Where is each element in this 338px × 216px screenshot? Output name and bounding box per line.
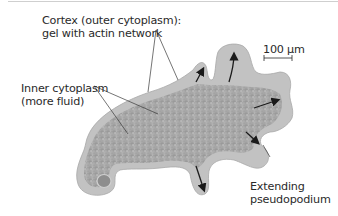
pseudopodium-label-line2: pseudopodium [250,193,331,206]
scale-bar-label: 100 µm [263,43,305,56]
cortex-label-line2: gel with actin network [42,27,162,40]
pseudopodium-label-line1: Extending [250,180,305,193]
inner-cytoplasm-label-line2: (more fluid) [21,95,84,108]
cortex-label-line1: Cortex (outer cytoplasm): [42,14,181,27]
contractile-vacuole [97,175,111,188]
inner-cytoplasm-label-line1: Inner cytoplasm [21,82,108,95]
